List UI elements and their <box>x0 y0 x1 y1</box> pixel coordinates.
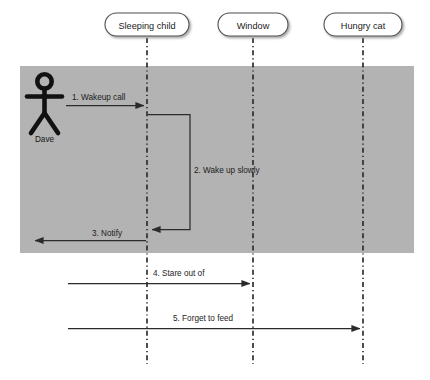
lifeline-header-hungry-cat[interactable]: Hungry cat <box>324 13 402 36</box>
message-label: 3. Notify <box>92 229 123 238</box>
lifeline-header-sleeping-child[interactable]: Sleeping child <box>105 13 189 36</box>
message-5-forget-to-feed[interactable]: 5. Forget to feed <box>68 314 360 329</box>
lifeline-header-label: Hungry cat <box>341 21 386 31</box>
lifeline-header-window[interactable]: Window <box>218 13 288 36</box>
message-label: 1. Wakeup call <box>72 93 126 102</box>
message-4-stare-out-of[interactable]: 4. Stare out of <box>68 269 250 284</box>
lifeline-header-label: Sleeping child <box>118 21 175 31</box>
message-label: 2. Wake up slowly <box>194 166 261 175</box>
lifeline-header-label: Window <box>237 21 270 31</box>
message-label: 5. Forget to feed <box>173 314 234 323</box>
diagram-svg: Sleeping child Window Hungry cat Dave 1.… <box>0 0 430 380</box>
message-label: 4. Stare out of <box>153 269 205 278</box>
actor-label: Dave <box>35 135 55 144</box>
sequence-diagram-canvas: Sleeping child Window Hungry cat Dave 1.… <box>0 0 430 380</box>
